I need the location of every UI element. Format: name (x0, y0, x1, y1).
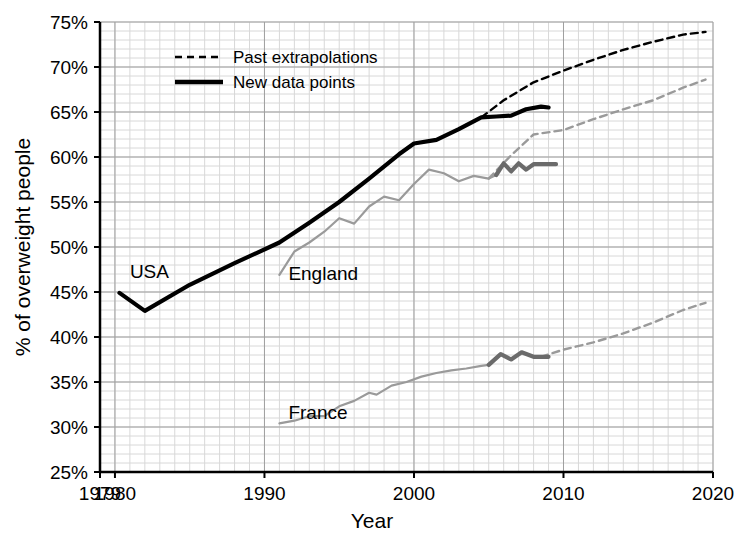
x-tick-label: 1990 (243, 483, 285, 504)
y-tick-label: 65% (50, 102, 88, 123)
y-tick-label: 70% (50, 57, 88, 78)
series-annotation: England (288, 263, 358, 284)
grid-major (100, 22, 713, 472)
series-line (496, 163, 556, 175)
y-tick-label: 45% (50, 282, 88, 303)
y-tick-label: 75% (50, 12, 88, 33)
y-tick-label: 30% (50, 417, 88, 438)
series-annotation: USA (130, 261, 169, 282)
x-axis-title: Year (351, 509, 393, 532)
x-tick-label: 1980 (94, 483, 136, 504)
x-tick-label: 2020 (692, 483, 734, 504)
x-tick-label: 2000 (393, 483, 435, 504)
y-tick-label: 35% (50, 372, 88, 393)
line-chart: 25%30%35%40%45%50%55%60%65%70%75%1979198… (0, 0, 744, 544)
legend-label: Past extrapolations (233, 48, 378, 67)
series-annotation: France (288, 402, 347, 423)
chart-container: 25%30%35%40%45%50%55%60%65%70%75%1979198… (0, 0, 744, 544)
y-axis-title: % of overweight people (11, 138, 34, 356)
x-tick-label: 2010 (542, 483, 584, 504)
y-tick-label: 25% (50, 462, 88, 483)
y-tick-label: 55% (50, 192, 88, 213)
y-tick-label: 40% (50, 327, 88, 348)
y-tick-label: 60% (50, 147, 88, 168)
legend-label: New data points (233, 73, 355, 92)
y-tick-label: 50% (50, 237, 88, 258)
